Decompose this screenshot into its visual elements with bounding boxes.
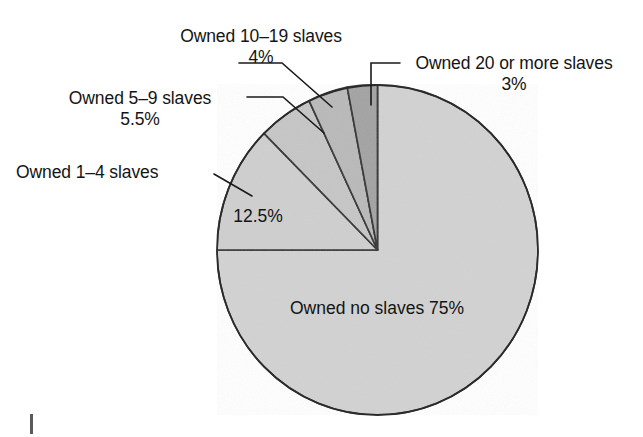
callout-owned-20-or-more-slaves: Owned 20 or more slaves 3% <box>398 53 630 94</box>
callout-label-owned-10-19: Owned 10–19 slaves <box>171 26 351 47</box>
pie-chart-figure: Owned 10–19 slaves 4% Owned 20 or more s… <box>0 0 643 437</box>
callout-label-owned-5-9: Owned 5–9 slaves <box>34 88 246 109</box>
callout-value-owned-20-or-more: 3% <box>398 74 630 95</box>
callout-owned-10-19-slaves: Owned 10–19 slaves 4% <box>171 26 351 67</box>
callout-label-owned-1-4: Owned 1–4 slaves <box>16 162 216 183</box>
slice-value-text-owned-no-slaves: 75% <box>429 298 464 318</box>
callout-label-owned-20-or-more: Owned 20 or more slaves <box>398 53 630 74</box>
slice-label-text-owned-no-slaves: Owned no slaves <box>290 298 424 318</box>
callout-owned-5-9-slaves: Owned 5–9 slaves 5.5% <box>34 88 246 129</box>
callout-value-owned-5-9: 5.5% <box>34 109 246 130</box>
slice-label-owned-no-slaves: Owned no slaves 75% <box>287 298 467 319</box>
slice-value-owned-1-4-slaves: 12.5% <box>213 206 303 227</box>
slice-value-text-owned-1-4: 12.5% <box>233 206 283 226</box>
page-edge-tick-icon <box>30 414 33 434</box>
callout-value-owned-10-19: 4% <box>171 47 351 68</box>
callout-owned-1-4-slaves: Owned 1–4 slaves <box>16 162 216 183</box>
